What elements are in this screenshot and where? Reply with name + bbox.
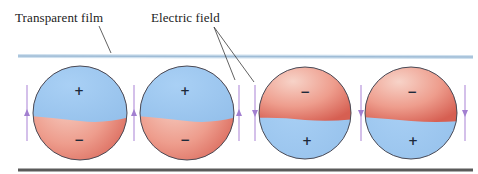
sphere-3-bottom-sign: + xyxy=(299,135,315,147)
electric-field-label: Electric field xyxy=(151,10,220,26)
sphere-1-bottom-sign: − xyxy=(71,134,87,146)
field-arrow-down-icon xyxy=(358,85,364,141)
sphere-2-top-sign: + xyxy=(177,85,193,97)
sphere-2 xyxy=(137,60,237,170)
leader-film xyxy=(99,26,111,53)
sphere-2-bottom-sign: − xyxy=(177,134,193,146)
field-arrow-up-icon xyxy=(131,85,137,141)
sphere-4 xyxy=(361,60,461,170)
transparent-film-label: Transparent film xyxy=(15,10,103,26)
transparent-film-top xyxy=(18,56,473,57)
field-arrow-up-icon xyxy=(24,85,30,141)
sphere-1-top-sign: + xyxy=(71,85,87,97)
field-arrow-down-icon xyxy=(252,85,258,141)
sphere-4-top-sign: − xyxy=(404,86,420,98)
leader-field-1 xyxy=(214,27,235,80)
sphere-3 xyxy=(255,60,355,170)
sphere-3-top-sign: − xyxy=(297,86,313,98)
field-arrow-down-icon xyxy=(462,85,468,141)
field-arrow-up-icon xyxy=(236,85,242,141)
sphere-1 xyxy=(30,60,130,170)
sphere-4-bottom-sign: + xyxy=(405,135,421,147)
electronic-paper-diagram: Transparent film Electric field + − + − … xyxy=(0,0,478,174)
